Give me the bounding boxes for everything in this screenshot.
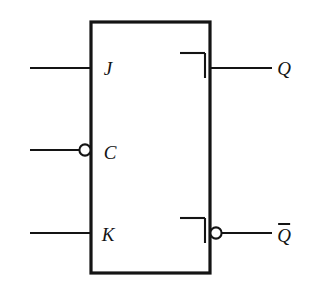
pin-label-q-not: Q [277, 223, 291, 245]
inversion-bubble-c [79, 144, 90, 155]
pin-label-q: Q [277, 59, 291, 78]
overbar-group: Q [277, 223, 291, 245]
jk-flip-flop-diagram [0, 0, 311, 285]
overbar-line [278, 223, 290, 225]
diagram-canvas: J C K Q Q [0, 0, 311, 285]
pin-label-c: C [104, 143, 117, 162]
pin-label-q-not-text: Q [277, 225, 291, 246]
inversion-bubble-q-not [210, 227, 221, 238]
pin-label-j: J [104, 59, 112, 78]
pin-label-k: K [102, 225, 115, 244]
